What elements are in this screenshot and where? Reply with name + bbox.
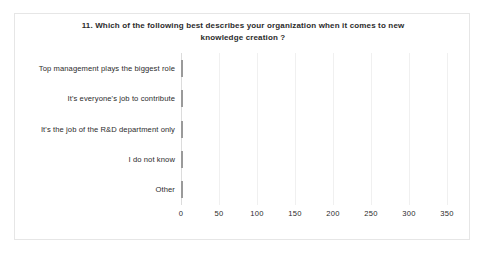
bar-row: I do not know <box>181 151 249 168</box>
category-label: Other <box>0 181 175 198</box>
x-tick-label-250: 250 <box>351 209 391 218</box>
x-tick-label-50: 50 <box>199 209 239 218</box>
x-tick-label-350: 350 <box>427 209 467 218</box>
category-label: I do not know <box>0 151 175 168</box>
x-tick-label-100: 100 <box>237 209 277 218</box>
gridline-350 <box>447 53 448 205</box>
category-label: It's the job of the R&D department only <box>0 121 175 138</box>
gridline-300 <box>409 53 410 205</box>
x-tick-label-200: 200 <box>313 209 353 218</box>
bar-row: Top management plays the biggest role <box>181 60 409 77</box>
bar[interactable] <box>181 181 183 198</box>
chart-title: 11. Which of the following best describe… <box>55 20 431 44</box>
x-tick-label-0: 0 <box>161 209 201 218</box>
x-tick-label-150: 150 <box>275 209 315 218</box>
category-label: Top management plays the biggest role <box>0 60 175 77</box>
chart-title-line-1: 11. Which of the following best describe… <box>55 20 431 32</box>
bar[interactable] <box>181 90 183 107</box>
bar-row: It's everyone's job to contribute <box>181 90 278 107</box>
bar[interactable] <box>181 60 183 77</box>
chart-title-line-2: knowledge creation ? <box>201 33 286 42</box>
bar[interactable] <box>181 151 183 168</box>
bar[interactable] <box>181 121 183 138</box>
chart-frame: 11. Which of the following best describe… <box>14 13 470 240</box>
bar-row: Other <box>181 181 213 198</box>
bar-row: It's the job of the R&D department only <box>181 121 249 138</box>
plot-area: 050100150200250300350 Top management pla… <box>181 53 447 205</box>
category-label: It's everyone's job to contribute <box>0 90 175 107</box>
x-tick-label-300: 300 <box>389 209 429 218</box>
